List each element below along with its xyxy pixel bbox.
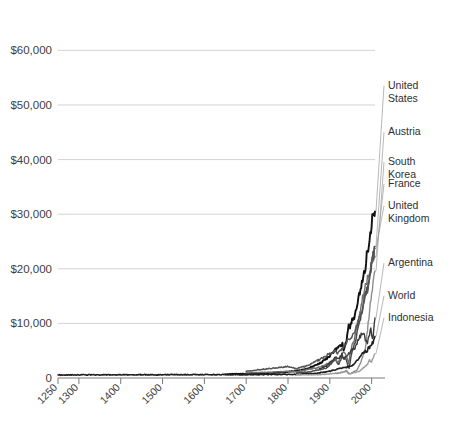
series-label-united-kingdom: United [388, 199, 419, 211]
y-tick-label: $10,000 [10, 317, 52, 329]
series-label-united-states: States [388, 92, 418, 104]
y-tick-label: $50,000 [10, 99, 52, 111]
line-chart: 0$10,000$20,000$30,000$40,000$50,000$60,… [0, 0, 451, 435]
series-label-austria: Austria [388, 125, 421, 137]
chart-background [0, 0, 451, 435]
y-tick-label: $40,000 [10, 154, 52, 166]
series-label-indonesia: Indonesia [388, 311, 434, 323]
series-label-argentina: Argentina [388, 256, 433, 268]
y-tick-label: $60,000 [10, 44, 52, 56]
chart-container: 0$10,000$20,000$30,000$40,000$50,000$60,… [0, 0, 451, 435]
series-label-united-states: United [388, 79, 419, 91]
series-label-world: World [388, 289, 415, 301]
y-tick-label: $20,000 [10, 263, 52, 275]
series-label-france: France [388, 177, 421, 189]
y-tick-label: $30,000 [10, 208, 52, 220]
series-label-south-korea: South [388, 155, 416, 167]
series-label-united-kingdom: Kingdom [388, 212, 430, 224]
